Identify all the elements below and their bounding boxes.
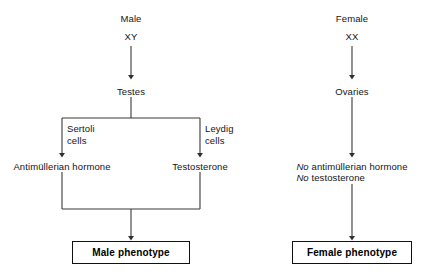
absent-amh-text: antimüllerian hormone bbox=[309, 161, 408, 172]
ovaries-label: Ovaries bbox=[335, 86, 368, 97]
male-karyotype-label: XY bbox=[125, 31, 138, 42]
absent-hormones-group: No antimüllerian hormone No testosterone bbox=[296, 161, 407, 183]
absent-antimullerian-hormone-line: No antimüllerian hormone bbox=[296, 161, 407, 172]
female-phenotype-box: Female phenotype bbox=[292, 241, 412, 264]
no-prefix-amh: No bbox=[296, 161, 308, 172]
female-karyotype-label: XX bbox=[346, 31, 359, 42]
testes-label: Testes bbox=[117, 86, 145, 97]
absent-testosterone-text: testosterone bbox=[309, 172, 365, 183]
female-phenotype-label: Female phenotype bbox=[307, 247, 397, 258]
male-sex-label: Male bbox=[121, 13, 142, 24]
antimullerian-hormone-label: Antimüllerian hormone bbox=[13, 161, 110, 172]
leydig-cells-label: Leydig cells bbox=[205, 123, 234, 146]
testosterone-label: Testosterone bbox=[172, 161, 228, 172]
male-phenotype-box: Male phenotype bbox=[72, 241, 190, 264]
absent-testosterone-line: No testosterone bbox=[296, 172, 407, 183]
female-sex-label: Female bbox=[336, 13, 368, 24]
diagram-canvas: Male XY Testes Sertoli cells Leydig cell… bbox=[0, 0, 428, 277]
male-phenotype-label: Male phenotype bbox=[92, 247, 170, 258]
no-prefix-testosterone: No bbox=[296, 172, 308, 183]
sertoli-cells-label: Sertoli cells bbox=[67, 123, 95, 146]
